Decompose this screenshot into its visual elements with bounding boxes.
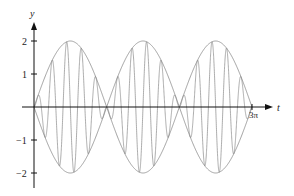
y-tick-label-neg2: −2 <box>16 168 27 179</box>
y-tick-label-1: 1 <box>22 69 27 80</box>
y-axis-label: y <box>29 8 35 19</box>
y-axis-arrow-icon <box>31 22 37 30</box>
chart-canvas: y t 2 1 −1 −2 3π <box>0 0 294 196</box>
x-axis-arrow-icon <box>265 104 273 110</box>
x-axis-label: t <box>277 102 280 113</box>
x-tick-label-3pi: 3π <box>249 110 259 120</box>
y-tick-label-2: 2 <box>22 36 27 47</box>
y-tick-label-neg1: −1 <box>16 135 27 146</box>
